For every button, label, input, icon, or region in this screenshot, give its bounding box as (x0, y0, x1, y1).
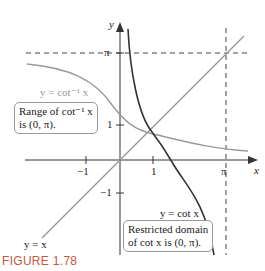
range-text-line1: Range of cot⁻¹ x (19, 105, 93, 118)
arccot-label: y = cot⁻¹ x (40, 86, 88, 99)
tick-label-x-m1: −1 (77, 165, 89, 177)
figure-container: y x π 1 −1 −1 1 π y = cot⁻¹ x Range of c… (0, 0, 265, 271)
tick-label-x-1: 1 (151, 165, 157, 177)
identity-label: y = x (24, 238, 47, 250)
figure-caption: FIGURE 1.78 (2, 254, 77, 268)
domain-text-line1: Restricted domain (128, 223, 208, 236)
x-axis-arrow-icon (248, 156, 258, 164)
identity-curve (42, 36, 244, 238)
tick-label-y-m1: −1 (100, 186, 112, 198)
tick-label-y-pi: π (104, 46, 110, 58)
tick-label-x-pi: π (221, 165, 227, 177)
range-text-line2: is (0, π). (19, 118, 93, 131)
domain-annotation-box: Restricted domain of cot x is (0, π). (123, 220, 213, 252)
y-axis-arrow-icon (116, 22, 124, 32)
x-axis-label: x (254, 164, 259, 176)
y-axis-label: y (109, 18, 114, 30)
tick-label-y-1: 1 (107, 118, 113, 130)
cot-label: y = cot x (160, 207, 199, 219)
range-annotation-box: Range of cot⁻¹ x is (0, π). (14, 102, 98, 134)
domain-text-line2: of cot x is (0, π). (128, 236, 208, 249)
